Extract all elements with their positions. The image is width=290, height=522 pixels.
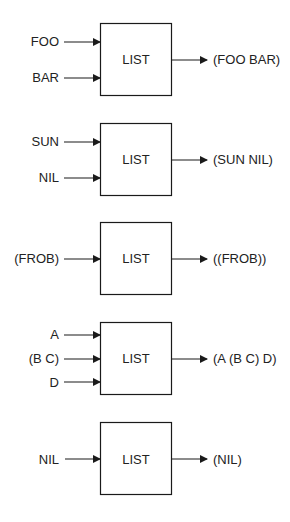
list-block-4: LIST A (B C) D (A (B C) D)	[29, 323, 277, 395]
input-label: D	[50, 375, 59, 390]
input-label: A	[50, 327, 59, 342]
input-label: (FROB)	[14, 251, 59, 266]
block-label: LIST	[122, 152, 150, 167]
input-label: BAR	[32, 70, 59, 85]
block-label: LIST	[122, 452, 150, 467]
list-block-1: LIST FOO BAR (FOO BAR)	[31, 24, 280, 96]
output-label: (FOO BAR)	[213, 52, 280, 67]
input-label: (B C)	[29, 351, 59, 366]
block-label: LIST	[122, 251, 150, 266]
output-label: (SUN NIL)	[213, 152, 273, 167]
list-block-3: LIST (FROB) ((FROB))	[14, 223, 266, 295]
list-block-5: LIST NIL (NIL)	[39, 423, 242, 495]
output-label: ((FROB))	[213, 251, 266, 266]
input-label: NIL	[39, 452, 59, 467]
output-label: (A (B C) D)	[213, 351, 277, 366]
block-label: LIST	[122, 351, 150, 366]
input-label: SUN	[32, 134, 59, 149]
input-label: NIL	[39, 170, 59, 185]
input-label: FOO	[31, 34, 59, 49]
list-function-diagram: LIST FOO BAR (FOO BAR) LIST SUN NIL (SUN…	[0, 0, 290, 522]
list-block-2: LIST SUN NIL (SUN NIL)	[32, 124, 273, 196]
block-label: LIST	[122, 52, 150, 67]
output-label: (NIL)	[213, 452, 242, 467]
